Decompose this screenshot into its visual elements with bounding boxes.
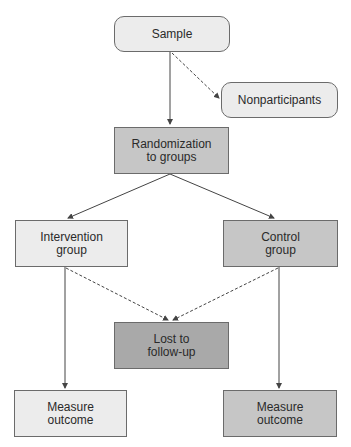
node-randomization-line2: to groups <box>146 151 196 164</box>
edge-intervention-to-lost <box>66 268 168 320</box>
node-intervention-line2: group <box>56 244 87 257</box>
node-measure-outcome-intervention: Measure outcome <box>14 390 127 437</box>
node-sample-label: Sample <box>152 28 193 41</box>
node-lost-to-follow-up: Lost to follow-up <box>114 322 229 369</box>
node-lost-line2: follow-up <box>147 346 195 359</box>
edge-randomization-to-control <box>170 174 274 218</box>
node-sample: Sample <box>114 16 230 52</box>
node-intervention-line1: Intervention <box>40 231 103 244</box>
node-intervention-group: Intervention group <box>15 220 128 267</box>
node-nonparticipants: Nonparticipants <box>221 82 338 118</box>
node-measure-outcome-control: Measure outcome <box>223 390 337 437</box>
node-control-line2: group <box>265 244 296 257</box>
node-control-group: Control group <box>223 220 338 267</box>
node-randomization-line1: Randomization <box>131 138 211 151</box>
edge-control-to-lost <box>173 268 278 320</box>
edge-sample-to-nonparticipants <box>172 53 219 98</box>
node-measure-control-line2: outcome <box>257 414 303 427</box>
node-measure-intervention-line2: outcome <box>47 414 93 427</box>
edge-randomization-to-intervention <box>68 174 170 218</box>
node-control-line1: Control <box>261 231 300 244</box>
node-measure-control-line1: Measure <box>257 401 304 414</box>
node-randomization: Randomization to groups <box>114 127 229 174</box>
node-nonparticipants-label: Nonparticipants <box>238 94 321 107</box>
node-measure-intervention-line1: Measure <box>47 401 94 414</box>
node-lost-line1: Lost to <box>153 333 189 346</box>
